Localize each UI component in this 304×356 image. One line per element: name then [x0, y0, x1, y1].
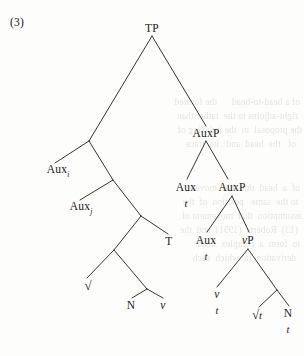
tree-node-auxj: Auxj — [70, 200, 93, 215]
tree-trace-v-t: t — [216, 305, 219, 316]
tree-branch — [132, 289, 147, 298]
tree-node-auxp2: AuxP — [218, 181, 245, 193]
tree-trace-aux-t2: t — [205, 251, 208, 262]
tree-branch — [206, 141, 228, 179]
tree-node-auxp1: AuxP — [192, 127, 219, 139]
tree-branch — [259, 290, 277, 307]
tree-node-aux-t2: Aux — [196, 234, 217, 246]
tree-node-aux-t1: Aux — [176, 181, 197, 193]
tree-branch — [217, 249, 248, 287]
syntax-tree-branches — [0, 0, 304, 356]
tree-node-root-left: √ — [84, 278, 91, 294]
tree-branch — [114, 216, 141, 250]
tree-branch — [89, 36, 152, 141]
tree-node-t-node: T — [165, 235, 172, 247]
tree-branch — [207, 196, 232, 232]
tree-branch — [87, 250, 114, 278]
tree-branch — [55, 141, 89, 163]
tree-branch — [277, 290, 289, 306]
tree-trace-aux-t1: t — [185, 198, 188, 209]
tree-node-vp: vP — [242, 234, 254, 246]
tree-branch — [113, 180, 141, 216]
tree-branch — [89, 141, 113, 180]
tree-branch — [147, 289, 163, 298]
tree-node-tp: TP — [145, 22, 159, 34]
tree-node-n-t: N — [284, 307, 293, 319]
tree-branch — [152, 36, 206, 126]
tree-node-v-left: v — [160, 299, 165, 311]
tree-node-v-t: v — [214, 288, 219, 300]
tree-branch — [187, 141, 206, 179]
tree-node-auxi: Auxi — [47, 163, 70, 178]
tree-branch — [248, 249, 277, 290]
tree-branch — [232, 196, 249, 232]
tree-branch — [141, 216, 168, 234]
tree-node-root-t: √t — [252, 307, 262, 323]
tree-node-n-left: N — [127, 299, 136, 311]
tree-branch — [114, 250, 147, 289]
figure-page: of a head-to-head the formedright-adjoin… — [0, 0, 304, 356]
tree-branch — [80, 180, 113, 200]
tree-trace-n-t: t — [287, 324, 290, 335]
